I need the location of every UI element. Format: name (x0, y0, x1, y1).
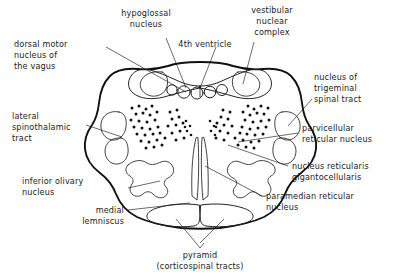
label-medial-lemniscus: medial lemniscus (82, 205, 124, 226)
label-gigantocellularis-line1: nucleus reticularis (292, 161, 369, 171)
label-parvicellular-line2: reticular nucleus (302, 134, 372, 144)
label-4th-ventricle-line1: 4th ventricle (178, 39, 231, 49)
label-dorsal-motor-nucleus-vagus: dorsal motor nucleus of the vagus (14, 39, 68, 71)
label-vestibular-line3: complex (254, 27, 289, 37)
label-parvicellular-line1: parvicellular (302, 123, 355, 133)
label-vestibular-line1: vestibular (251, 5, 293, 15)
trigeminal-spinal-tract-nucleus-shape (273, 112, 300, 165)
label-trigeminal-line3: spinal tract (314, 94, 361, 104)
label-hypoglossal-line2: nucleus (130, 19, 162, 29)
leader-4th-ventricle (200, 47, 216, 88)
pyramid-shapes (147, 204, 253, 227)
label-trigeminal-spinal-tract-nucleus: nucleus of trigeminal spinal tract (314, 72, 361, 104)
label-olivary-line1: inferior olivary (22, 176, 83, 186)
inferior-olivary-nucleus-left-shape (126, 161, 174, 198)
leader-gigantocellularis (228, 145, 288, 166)
fourth-ventricle (129, 69, 272, 98)
label-parvicellular-reticular-nucleus: parvicellular reticular nucleus (302, 123, 372, 144)
label-fourth-ventricle: 4th ventricle (178, 39, 231, 49)
leader-pyramid-left (176, 219, 196, 243)
label-pyramid-line2: (corticospinal tracts) (157, 261, 244, 271)
label-lateral-spinothalamic-tract: lateral spinothalamic tract (12, 111, 71, 143)
label-pyramid: pyramid (corticospinal tracts) (157, 250, 244, 271)
label-paramedian-line2: nucleus (266, 202, 298, 212)
label-pyramid-line1: pyramid (183, 250, 218, 260)
label-olivary-line2: nucleus (22, 187, 54, 197)
lateral-spinothalamic-tract-shape (101, 112, 128, 165)
label-inferior-olivary-nucleus: inferior olivary nucleus (22, 176, 83, 197)
reticular-formation-stippling (130, 105, 271, 150)
label-dorsal-vagus-line3: the vagus (14, 61, 55, 71)
label-hypoglossal-line1: hypoglossal (121, 8, 171, 18)
label-vestibular-line2: nuclear (256, 16, 288, 26)
midline-raphe-structures (192, 138, 209, 200)
label-trigeminal-line1: nucleus of (314, 72, 357, 82)
leader-pyramid-right (200, 219, 224, 243)
label-spinothalamic-line2: spinothalamic (12, 122, 71, 132)
medulla-cross-section-figure: hypoglossal nucleus dorsal motor nucleus… (0, 0, 401, 273)
label-nucleus-reticularis-gigantocellularis: nucleus reticularis gigantocellularis (292, 161, 369, 182)
leader-medial-lemniscus (128, 203, 190, 210)
label-spinothalamic-line1: lateral (12, 111, 39, 121)
leader-dorsal-motor-vagus (106, 47, 186, 92)
label-hypoglossal-nucleus: hypoglossal nucleus (121, 8, 171, 29)
label-vestibular-nuclear-complex: vestibular nuclear complex (251, 5, 293, 37)
label-paramedian-reticular-nucleus: paramedian reticular nucleus (266, 191, 354, 212)
leader-vestibular (243, 42, 254, 84)
label-paramedian-line1: paramedian reticular (266, 191, 354, 201)
label-lemniscus-line2: lemniscus (82, 216, 124, 226)
label-dorsal-vagus-line2: nucleus of (14, 50, 57, 60)
label-spinothalamic-line3: tract (12, 133, 32, 143)
label-lemniscus-line1: medial (96, 205, 124, 215)
leader-pyramid-vee (196, 243, 204, 248)
label-trigeminal-line2: trigeminal (314, 83, 357, 93)
label-dorsal-vagus-line1: dorsal motor (14, 39, 68, 49)
label-gigantocellularis-line2: gigantocellularis (292, 172, 361, 182)
